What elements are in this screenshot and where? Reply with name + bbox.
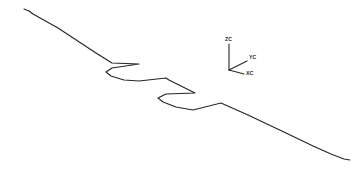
x-axis-label: XC: [246, 70, 254, 76]
y-axis-label: YC: [249, 54, 257, 60]
z-axis-label: ZC: [225, 36, 232, 42]
line-drawing-svg: ZC YC XC: [0, 0, 362, 173]
drawing-canvas: ZC YC XC: [0, 0, 362, 173]
